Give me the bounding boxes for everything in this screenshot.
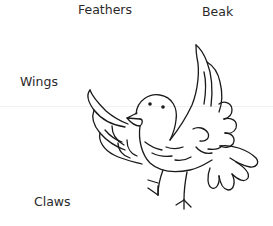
bird-claws (148, 170, 191, 209)
bird-left-wing (88, 90, 142, 164)
bird-head (136, 95, 176, 140)
bird-beak (127, 113, 142, 126)
eye-left (148, 102, 152, 106)
eye-right (161, 105, 165, 109)
bird-illustration (0, 0, 273, 226)
bird-right-wing (170, 45, 258, 190)
